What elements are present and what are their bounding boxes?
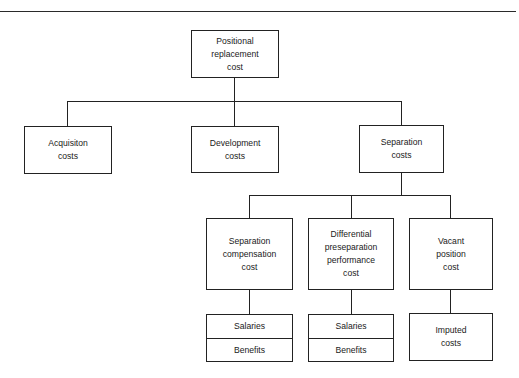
- connector: [249, 290, 250, 315]
- connector: [67, 101, 68, 127]
- leaf-group-differential-preseparation: Salaries Benefits: [308, 314, 394, 362]
- connector: [351, 290, 352, 315]
- leaf-label: Benefits: [234, 344, 265, 357]
- connector: [401, 173, 402, 196]
- connector: [450, 195, 451, 219]
- node-label: Separation compensation cost: [223, 235, 277, 274]
- node-positional-replacement-cost: Positional replacement cost: [191, 30, 279, 78]
- leaf-imputed-costs: Imputed costs: [409, 313, 493, 361]
- connector: [401, 101, 402, 127]
- node-label: Positional replacement cost: [211, 35, 258, 74]
- leaf-label: Imputed costs: [435, 324, 466, 350]
- connector: [450, 290, 451, 314]
- node-vacant-position-cost: Vacant position cost: [409, 218, 493, 290]
- node-differential-preseparation-performance-cost: Differential preseparation performance c…: [308, 218, 394, 290]
- node-label: Acquisiton costs: [48, 137, 88, 163]
- leaf-salaries: Salaries: [309, 315, 393, 338]
- leaf-group-separation-compensation: Salaries Benefits: [206, 314, 293, 362]
- connector: [249, 195, 451, 196]
- leaf-benefits: Benefits: [309, 338, 393, 361]
- node-separation-compensation-cost: Separation compensation cost: [206, 218, 293, 290]
- leaf-benefits: Benefits: [207, 338, 292, 361]
- leaf-label: Salaries: [335, 320, 366, 333]
- leaf-label: Salaries: [234, 320, 265, 333]
- leaf-salaries: Salaries: [207, 315, 292, 338]
- node-label: Development costs: [210, 137, 261, 163]
- node-acquisition-costs: Acquisiton costs: [24, 126, 112, 174]
- top-rule: [0, 11, 516, 12]
- connector: [234, 101, 235, 127]
- connector: [234, 78, 235, 102]
- connector: [351, 195, 352, 219]
- connector: [249, 195, 250, 219]
- node-development-costs: Development costs: [191, 126, 279, 173]
- leaf-label: Benefits: [335, 344, 366, 357]
- node-label: Separation costs: [381, 136, 423, 162]
- node-label: Differential preseparation performance c…: [325, 228, 378, 280]
- node-label: Vacant position cost: [436, 235, 466, 274]
- node-separation-costs: Separation costs: [359, 125, 444, 173]
